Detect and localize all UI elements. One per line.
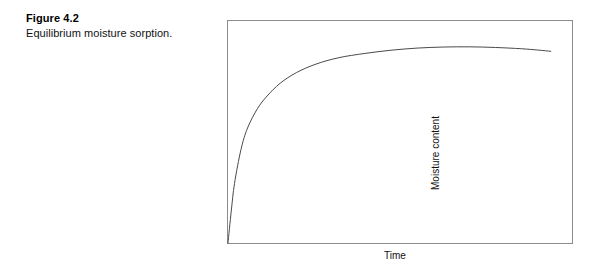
- figure-plot-area: Moisture content: [227, 20, 573, 244]
- figure-caption-block: Figure 4.2 Equilibrium moisture sorption…: [26, 11, 206, 40]
- figure-caption-text: Equilibrium moisture sorption.: [26, 26, 206, 40]
- sorption-curve-path: [228, 47, 551, 243]
- sorption-curve: [227, 20, 573, 244]
- figure-number-label: Figure 4.2: [26, 11, 206, 25]
- x-axis-title: Time: [330, 250, 460, 262]
- y-axis-title: Moisture content: [430, 73, 442, 233]
